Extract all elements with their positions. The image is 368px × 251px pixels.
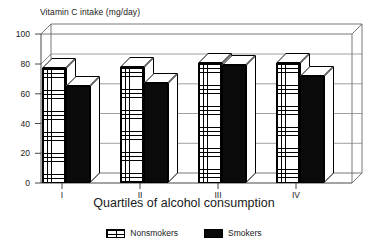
bar-front-face: [276, 63, 300, 183]
y-tick-80: 80: [8, 59, 30, 69]
chart-x-axis-title: Quartiles of alcohol consumption: [0, 196, 368, 210]
bar-front-face: [300, 76, 324, 183]
y-tick-20: 20: [8, 148, 30, 158]
legend-item-nonsmokers: Nonsmokers: [106, 228, 178, 238]
bar-nonsmokers-IV: [276, 0, 300, 183]
bar-front-face: [120, 67, 144, 183]
y-tick-60: 60: [8, 89, 30, 99]
legend-swatch-solid-icon: [204, 229, 223, 238]
y-tick-40: 40: [8, 119, 30, 129]
bar-front-face: [66, 86, 90, 183]
legend-label-smokers: Smokers: [228, 228, 262, 238]
bar-front-face: [42, 68, 66, 183]
legend-item-smokers: Smokers: [204, 228, 262, 238]
y-tick-0: 0: [8, 178, 30, 188]
bar-nonsmokers-III: [198, 0, 222, 183]
bar-nonsmokers-I: [42, 0, 66, 183]
bar-side-face: [168, 73, 178, 183]
bar-side-face: [90, 76, 100, 183]
bar-side-face: [246, 55, 256, 183]
bar-front-face: [144, 83, 168, 183]
bar-smokers-III: [222, 0, 246, 183]
bar-front-face: [198, 63, 222, 183]
chart-legend: Nonsmokers Smokers: [0, 228, 368, 238]
bar-side-face: [324, 66, 334, 183]
y-tick-100: 100: [8, 29, 30, 39]
bar-front-face: [222, 65, 246, 183]
bar-nonsmokers-II: [120, 0, 144, 183]
bar-smokers-IV: [300, 0, 324, 183]
legend-swatch-hatch-icon: [106, 229, 125, 238]
bar-smokers-I: [66, 0, 90, 183]
bar-smokers-II: [144, 0, 168, 183]
legend-label-nonsmokers: Nonsmokers: [130, 228, 178, 238]
vitamin-c-bar-chart: Vitamin C intake (mg/day): [0, 0, 368, 251]
